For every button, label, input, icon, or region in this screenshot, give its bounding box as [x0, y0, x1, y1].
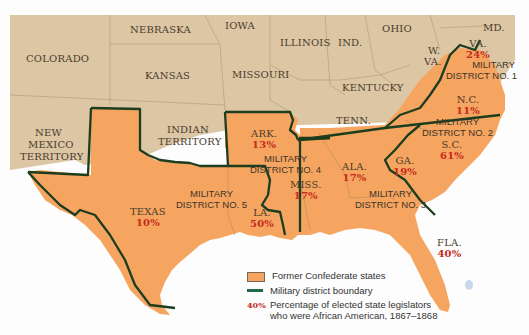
district-line2: DISTRICT NO. 2 [422, 127, 493, 138]
military-district-5: MILITARY DISTRICT NO. 5 [176, 188, 247, 210]
state-name: TENN. [336, 115, 371, 126]
district-line1: MILITARY [355, 188, 426, 199]
legend-item-boundary: Military district boundary [247, 285, 437, 296]
label-new-mexico-2: MEXICO [28, 139, 74, 150]
state-percent: 17% [290, 190, 322, 201]
label-indian-territory-2: TERRITORY [158, 136, 221, 147]
military-district-4: MILITARY DISTRICT NO. 4 [250, 153, 321, 175]
label-new-mexico-1: NEW [35, 127, 62, 138]
state-arkansas: ARK. 13% [251, 128, 277, 150]
confederate-swatch-icon [247, 272, 265, 282]
military-district-1: MILITARY DISTRICT NO. 1 [446, 59, 517, 81]
label-maryland: MD. [483, 22, 505, 33]
legend-label: Military district boundary [270, 285, 372, 296]
label-kentucky: KENTUCKY [342, 82, 404, 93]
district-line2: DISTRICT NO. 4 [250, 164, 321, 175]
label-nebraska: NEBRASKA [130, 24, 191, 35]
label-colorado: COLORADO [26, 53, 89, 64]
state-virginia: VA. 24% [466, 38, 490, 60]
state-name: ARK. [251, 128, 277, 139]
legend-item-percentage: 40% Percentage of elected state legislat… [247, 299, 437, 321]
district-line1: MILITARY [446, 59, 517, 70]
district-line2: DISTRICT NO. 1 [446, 70, 517, 81]
district-line1: MILITARY [176, 188, 247, 199]
legend-item-confederate: Former Confederate states [247, 270, 437, 282]
state-percent: 61% [440, 150, 464, 161]
state-north-carolina: N.C. 11% [456, 94, 480, 116]
state-name: MISS. [290, 179, 322, 190]
state-percent: 19% [393, 166, 417, 177]
state-name: FLA. [437, 237, 462, 248]
state-name: TEXAS [130, 206, 166, 217]
label-illinois: ILLINOIS [280, 37, 331, 48]
state-name: VA. [466, 38, 490, 49]
legend-label: Former Confederate states [272, 270, 386, 281]
district-line2: DISTRICT NO. 3 [355, 199, 426, 210]
label-indian-territory-1: INDIAN [167, 124, 209, 135]
label-west-virginia-1: W. [428, 45, 440, 56]
legend-label: Percentage of elected state legislators … [270, 299, 437, 321]
state-name: LA. [250, 207, 274, 218]
state-percent: 50% [250, 218, 274, 229]
boundary-line-icon [247, 289, 263, 292]
state-percent: 11% [456, 105, 480, 116]
label-kansas: KANSAS [145, 70, 190, 81]
state-georgia: GA. 19% [393, 155, 417, 177]
state-percent: 17% [342, 172, 367, 183]
district-line1: MILITARY [422, 116, 493, 127]
legend: Former Confederate states Military distr… [247, 270, 437, 324]
state-texas: TEXAS 10% [130, 206, 166, 228]
state-alabama: ALA. 17% [342, 161, 367, 183]
label-missouri: MISSOURI [232, 69, 289, 80]
percent-sample: 40% [247, 299, 263, 310]
district-line1: MILITARY [250, 153, 321, 164]
state-percent: 13% [251, 139, 277, 150]
state-tennessee: TENN. [336, 115, 371, 126]
state-mississippi: MISS. 17% [290, 179, 322, 201]
lake-okeechobee [465, 280, 473, 290]
military-district-3: MILITARY DISTRICT NO. 3 [355, 188, 426, 210]
state-percent: 40% [437, 248, 462, 259]
label-iowa: IOWA [225, 20, 255, 31]
label-indiana: IND. [338, 37, 362, 48]
reconstruction-map: NEBRASKA IOWA COLORADO KANSAS MISSOURI I… [0, 0, 529, 335]
legend-label-line1: Percentage of elected state legislators [270, 299, 437, 310]
label-new-mexico-3: TERRITORY [20, 151, 83, 162]
state-name: N.C. [456, 94, 480, 105]
military-district-2: MILITARY DISTRICT NO. 2 [422, 116, 493, 138]
label-ohio: OHIO [382, 23, 412, 34]
state-name: GA. [393, 155, 417, 166]
state-name: ALA. [342, 161, 367, 172]
state-south-carolina: S.C. 61% [440, 139, 464, 161]
state-florida: FLA. 40% [437, 237, 462, 259]
state-percent: 10% [130, 217, 166, 228]
state-name: S.C. [440, 139, 464, 150]
label-west-virginia-2: VA. [424, 56, 442, 67]
legend-label-line2: who were African American, 1867–1868 [270, 310, 437, 321]
state-louisiana: LA. 50% [250, 207, 274, 229]
district-line2: DISTRICT NO. 5 [176, 199, 247, 210]
